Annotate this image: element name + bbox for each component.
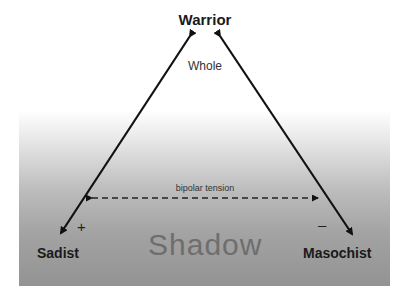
sadist-label: Sadist <box>37 245 79 261</box>
masochist-label: Masochist <box>303 245 371 261</box>
warrior-label: Warrior <box>0 11 410 28</box>
minus-sign: – <box>318 216 326 233</box>
whole-label: Whole <box>0 59 410 73</box>
shadow-label: Shadow <box>148 228 262 262</box>
plus-sign: + <box>77 218 86 235</box>
bipolar-tension-label: bipolar tension <box>0 183 410 193</box>
